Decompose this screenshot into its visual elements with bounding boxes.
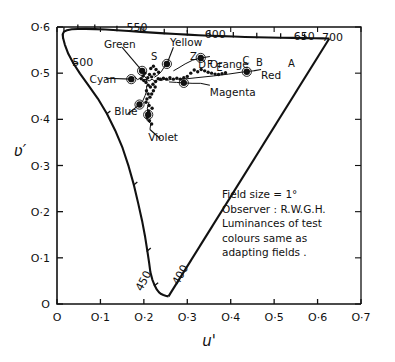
point-label-b: B xyxy=(256,57,263,68)
data-point xyxy=(203,69,206,72)
x-tick-label: O·3 xyxy=(178,311,197,324)
annotation-line: Observer : R.W.G.H. xyxy=(222,203,326,215)
point-label-e: E xyxy=(216,62,222,73)
y-tick-label: O·2 xyxy=(31,206,50,219)
data-point xyxy=(148,95,151,98)
point-label-d: D xyxy=(198,59,206,70)
data-point xyxy=(138,103,141,106)
data-point xyxy=(206,71,209,74)
point-label-s: S xyxy=(151,51,157,62)
data-point xyxy=(149,67,152,70)
x-tick-label: O·7 xyxy=(351,311,370,324)
data-point xyxy=(142,79,145,82)
data-point xyxy=(154,80,157,83)
data-point xyxy=(145,97,148,100)
y-tick-label: O xyxy=(41,298,50,311)
data-point xyxy=(168,76,171,79)
data-point xyxy=(213,72,216,75)
leader-line-magenta xyxy=(200,83,210,85)
data-point xyxy=(152,89,155,92)
data-point xyxy=(140,69,143,72)
data-point xyxy=(182,81,185,84)
point-label-z: Z xyxy=(190,51,197,62)
data-point xyxy=(179,77,182,80)
y-tick-label: O·6 xyxy=(31,21,50,34)
data-point xyxy=(224,71,227,74)
data-point xyxy=(165,62,168,65)
data-point xyxy=(146,76,149,79)
annotation-line: Field size = 1° xyxy=(222,188,297,200)
x-tick-label: O·4 xyxy=(221,311,240,324)
data-point xyxy=(148,119,151,122)
data-point xyxy=(182,76,185,79)
wavelength-label-550: 550 xyxy=(126,21,147,34)
y-tick-label: O·1 xyxy=(31,252,50,265)
data-point xyxy=(146,116,149,119)
data-point xyxy=(149,85,152,88)
x-tick-label: O xyxy=(53,311,62,324)
data-point xyxy=(196,70,199,73)
x-tick-label: O·6 xyxy=(308,311,327,324)
data-point xyxy=(153,85,156,88)
data-point xyxy=(144,101,147,104)
x-tick-label: O·5 xyxy=(265,311,284,324)
hue-label-green: Green xyxy=(104,38,136,50)
annotation-line: adapting fields . xyxy=(222,246,307,258)
data-point xyxy=(150,122,153,125)
data-point xyxy=(147,104,150,107)
annotation-line: Luminances of test xyxy=(222,217,322,229)
data-point xyxy=(189,71,192,74)
data-point xyxy=(151,83,154,86)
x-axis-title: u' xyxy=(202,332,216,350)
hue-label-magenta: Magenta xyxy=(210,86,256,98)
data-point xyxy=(165,77,168,80)
data-point xyxy=(150,107,153,110)
wavelength-label-500: 500 xyxy=(72,56,93,69)
point-label-f: F xyxy=(207,59,213,70)
data-point xyxy=(150,75,153,78)
data-point xyxy=(159,77,162,80)
y-tick-label: O·5 xyxy=(31,67,50,80)
chromaticity-diagram: OO·1O·2O·3O·4O·5O·6O·7OO·1O·2O·3O·4O·5O·… xyxy=(0,0,395,362)
data-point xyxy=(147,109,150,112)
point-label-a: A xyxy=(288,58,295,69)
figure-root: OO·1O·2O·3O·4O·5O·6O·7OO·1O·2O·3O·4O·5O·… xyxy=(0,0,395,362)
leader-line-red xyxy=(253,69,261,70)
data-point xyxy=(162,77,165,80)
y-axis-title: ʋ′ xyxy=(14,142,27,160)
data-point xyxy=(130,77,133,80)
hue-label-red: Red xyxy=(261,69,281,81)
wavelength-label-700: 700 xyxy=(322,31,343,44)
data-point xyxy=(145,89,148,92)
hue-label-blue: Blue xyxy=(114,105,137,117)
data-point xyxy=(157,71,160,74)
annotation-line: colours same as xyxy=(222,232,307,244)
x-tick-label: O·1 xyxy=(91,311,110,324)
data-point xyxy=(154,68,157,71)
data-point xyxy=(147,92,150,95)
y-tick-label: O·3 xyxy=(31,160,50,173)
data-point xyxy=(150,92,153,95)
data-point xyxy=(153,72,156,75)
data-point xyxy=(175,77,178,80)
data-point xyxy=(172,77,175,80)
hue-label-cyan: Cyan xyxy=(90,73,117,85)
wavelength-label-600: 600 xyxy=(205,28,226,41)
data-point xyxy=(186,75,189,78)
x-tick-label: O·2 xyxy=(134,311,153,324)
data-point xyxy=(152,65,155,68)
wavelength-label-650: 650 xyxy=(294,30,315,43)
data-point xyxy=(245,70,248,73)
point-label-c: C xyxy=(242,55,249,66)
data-point xyxy=(210,71,213,74)
data-point xyxy=(193,68,196,71)
data-point xyxy=(217,73,220,76)
hue-label-violet: Violet xyxy=(148,131,178,143)
hue-label-yellow: Yellow xyxy=(169,36,203,48)
y-tick-label: O·4 xyxy=(31,113,50,126)
